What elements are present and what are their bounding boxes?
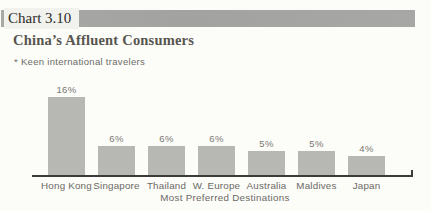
bar-chart: 16%6%6%6%5%5%4% Hong KongSingaporeThaila… (0, 0, 431, 211)
category-label: Japan (332, 180, 402, 191)
category-labels-row: Hong KongSingaporeThailandW. EuropeAustr… (0, 0, 431, 211)
x-axis-title: Most Preferred Destinations (123, 192, 327, 203)
chart-panel: Chart 3.10 China’s Affluent Consumers * … (0, 0, 431, 211)
